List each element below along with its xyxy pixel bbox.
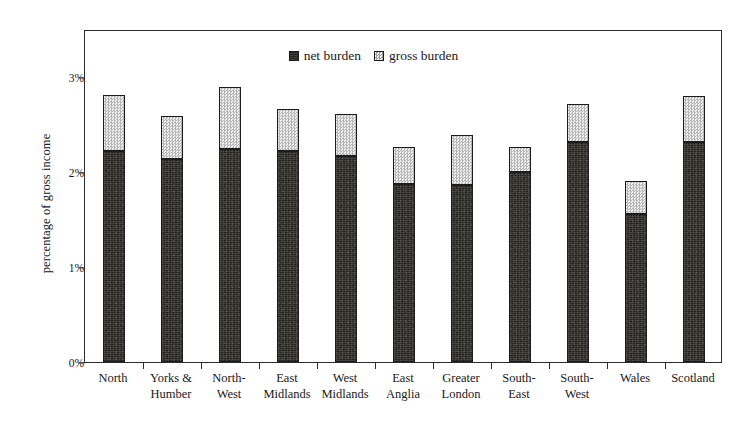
bar-stack xyxy=(393,147,415,362)
bar-segment-gross-burden xyxy=(103,95,125,151)
y-axis-title: percentage of gross income xyxy=(39,74,54,334)
bar-stack xyxy=(509,147,531,362)
legend-entry: gross burden xyxy=(374,48,458,64)
x-axis-tick-label-line: Scotland xyxy=(647,371,739,387)
bar-stack xyxy=(683,96,705,362)
bar-segment-net-burden xyxy=(683,142,705,362)
legend-label: net burden xyxy=(304,48,361,64)
bar-segment-net-burden xyxy=(161,159,183,362)
bar-segment-net-burden xyxy=(103,151,125,362)
bar-segment-net-burden xyxy=(509,172,531,362)
bar-segment-net-burden xyxy=(277,151,299,362)
x-axis-tick-mark xyxy=(549,362,550,369)
bar-stack xyxy=(567,104,589,362)
legend-entry: net burden xyxy=(289,48,361,64)
bar-stack xyxy=(103,95,125,362)
y-axis-tick-label: 3% xyxy=(30,72,84,84)
bar-segment-gross-burden xyxy=(277,109,299,151)
x-axis-tick-mark xyxy=(491,362,492,369)
bar-stack xyxy=(625,181,647,362)
bar-segment-gross-burden xyxy=(335,114,357,156)
x-axis-tick-mark xyxy=(433,362,434,369)
bar-segment-gross-burden xyxy=(567,104,589,142)
gross-burden-swatch xyxy=(374,51,384,61)
bar-segment-gross-burden xyxy=(509,147,531,172)
bar-segment-gross-burden xyxy=(161,116,183,159)
chart-figure: percentage of gross income 0%1%2%3% Nort… xyxy=(0,0,747,433)
x-axis-tick-mark xyxy=(143,362,144,369)
x-axis-tick-mark xyxy=(607,362,608,369)
bar-segment-net-burden xyxy=(219,149,241,362)
y-axis-tick-label: 2% xyxy=(30,167,84,179)
bar-segment-gross-burden xyxy=(393,147,415,184)
bar-segment-gross-burden xyxy=(219,87,241,149)
bar-segment-gross-burden xyxy=(625,181,647,214)
bar-stack xyxy=(451,135,473,362)
bar-segment-gross-burden xyxy=(683,96,705,142)
bar-stack xyxy=(277,109,299,362)
plot-area xyxy=(84,30,722,363)
x-axis-tick-mark xyxy=(201,362,202,369)
legend-label: gross burden xyxy=(389,48,458,64)
x-axis-tick-label-line: West xyxy=(531,387,623,403)
x-axis-tick-mark xyxy=(259,362,260,369)
y-axis-tick-label: 1% xyxy=(30,262,84,274)
bar-segment-gross-burden xyxy=(451,135,473,185)
bar-segment-net-burden xyxy=(335,156,357,362)
bar-segment-net-burden xyxy=(393,184,415,362)
bar-segment-net-burden xyxy=(451,185,473,362)
bar-segment-net-burden xyxy=(567,142,589,362)
bar-stack xyxy=(219,87,241,362)
x-axis-tick-mark xyxy=(375,362,376,369)
bar-segment-net-burden xyxy=(625,214,647,362)
x-axis-tick-label: Scotland xyxy=(647,371,739,387)
bar-stack xyxy=(335,114,357,362)
x-axis-tick-mark xyxy=(665,362,666,369)
y-axis-tick-label: 0% xyxy=(30,357,84,369)
chart-legend: net burdengross burden xyxy=(0,48,747,64)
bar-stack xyxy=(161,116,183,362)
net-burden-swatch xyxy=(289,51,299,61)
x-axis-tick-mark xyxy=(317,362,318,369)
